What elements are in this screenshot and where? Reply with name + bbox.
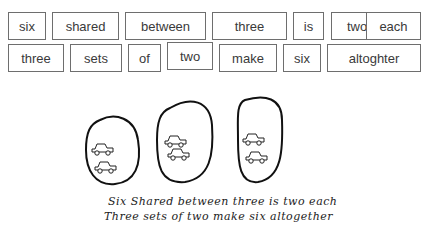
car-icon xyxy=(246,152,267,163)
car-icon xyxy=(95,162,116,173)
car-icon xyxy=(165,136,186,147)
group-2 xyxy=(157,101,212,182)
handwriting-line-1: Six Shared between three is two each xyxy=(108,195,337,208)
handwriting-line-2: Three sets of two make six altogether xyxy=(104,210,333,223)
car-icon xyxy=(92,144,113,155)
car-icon xyxy=(168,149,189,160)
group-1 xyxy=(86,117,139,185)
group-3 xyxy=(238,97,282,182)
car-icon xyxy=(243,134,264,145)
